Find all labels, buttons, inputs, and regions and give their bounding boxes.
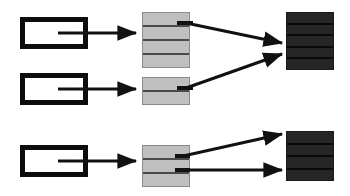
- connector-light-stack-3-to-dark-stack-2-upper[interactable]: [183, 134, 282, 156]
- connector-light-stack-1-to-dark-stack-1[interactable]: [186, 23, 282, 43]
- connector-layer: [0, 0, 350, 196]
- connector-light-stack-2-to-dark-stack-1[interactable]: [186, 54, 282, 88]
- diagram-canvas: [0, 0, 350, 196]
